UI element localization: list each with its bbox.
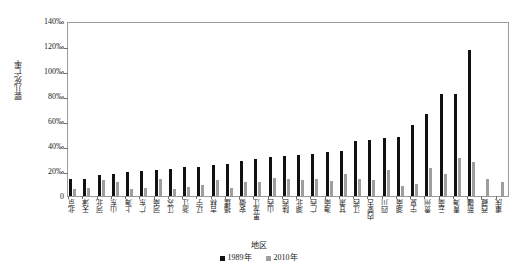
bar	[454, 94, 457, 197]
bar-group	[410, 23, 424, 196]
x-axis-tick-label: 山西	[268, 199, 279, 213]
bar-group	[382, 23, 396, 196]
bar-group	[481, 23, 495, 196]
bar	[273, 178, 276, 196]
bar	[287, 179, 290, 197]
x-axis-tick-label: 宁夏	[411, 199, 422, 213]
bar	[197, 167, 200, 196]
legend-swatch-icon	[266, 256, 271, 261]
bar	[244, 182, 247, 196]
bar	[87, 188, 90, 196]
x-axis-tick-label: 广西	[311, 199, 322, 213]
bar-group	[467, 23, 481, 196]
bar	[330, 181, 333, 196]
bar	[326, 152, 329, 196]
bar-group	[239, 23, 253, 196]
bar-group	[125, 23, 139, 196]
legend-label: 2010年	[274, 254, 298, 262]
x-axis-tick-label: 江苏	[168, 199, 179, 213]
bar	[144, 188, 147, 196]
x-axis-tick-label: 新疆	[468, 199, 479, 213]
x-axis-tick-label: 天津	[83, 199, 94, 213]
bar-group	[211, 23, 225, 196]
x-axis-tick-label: 河南	[154, 199, 165, 213]
bar	[230, 188, 233, 196]
bar-group	[339, 23, 353, 196]
bar	[301, 180, 304, 196]
bar	[444, 174, 447, 197]
bar	[415, 184, 418, 196]
bar-group	[396, 23, 410, 196]
bar	[69, 179, 72, 196]
x-axis-tick-label: 海南	[325, 199, 336, 213]
bar	[159, 179, 162, 197]
bar-group	[310, 23, 324, 196]
bar	[368, 140, 371, 196]
bar	[126, 172, 129, 196]
x-axis-tick-label: 上海	[126, 199, 137, 213]
bar	[216, 180, 219, 196]
x-axis-tick-label: 贵州	[425, 199, 436, 213]
bar	[254, 159, 257, 197]
bar	[240, 161, 243, 196]
x-axis-tick-label: 西藏	[482, 199, 493, 213]
bar	[315, 179, 318, 197]
bar-group	[282, 23, 296, 196]
bar	[102, 180, 105, 196]
bar	[387, 170, 390, 196]
legend-swatch-icon	[220, 256, 225, 261]
x-axis-tick-label: 浙江	[183, 199, 194, 213]
bar	[340, 151, 343, 196]
bar-group	[139, 23, 153, 196]
y-axis-tick-label: 120‰	[44, 43, 64, 51]
bar-group	[424, 23, 438, 196]
bar-group	[68, 23, 82, 196]
x-axis-tick-label: 陕西	[283, 199, 294, 213]
x-axis-tick-label: 江西	[354, 199, 365, 213]
x-axis-tick-label: 内蒙古	[368, 199, 379, 220]
bar-group	[225, 23, 239, 196]
legend-item[interactable]: 2010年	[266, 254, 298, 262]
x-axis-tick-label: 北京	[69, 199, 80, 213]
bar	[140, 171, 143, 196]
legend-item[interactable]: 1989年	[220, 254, 252, 262]
bar	[130, 189, 133, 196]
bar-group	[82, 23, 96, 196]
bar	[344, 174, 347, 196]
bar-group	[439, 23, 453, 196]
x-axis-tick-label: 福建	[225, 199, 236, 213]
x-axis-tick-label: 四川	[382, 199, 393, 213]
bar	[73, 189, 76, 197]
bar	[226, 164, 229, 197]
y-axis-tick-label: 100‰	[44, 68, 64, 76]
x-axis-tick-label: 湖南	[397, 199, 408, 213]
bar	[169, 169, 172, 197]
x-axis-tick-label: 黑龙江	[254, 199, 265, 220]
bar	[201, 185, 204, 196]
x-axis-tick-label: 山东	[111, 199, 122, 213]
bar	[501, 182, 504, 196]
bar-group	[97, 23, 111, 196]
bar	[258, 182, 261, 196]
y-axis-tick-labels: 140‰120‰100‰80‰60‰40‰20‰0	[26, 0, 64, 275]
bar	[112, 174, 115, 196]
bar-group	[496, 23, 510, 196]
bar-group	[367, 23, 381, 196]
bar-group	[111, 23, 125, 196]
x-axis-tick-label: 河北	[97, 199, 108, 213]
legend-label: 1989年	[228, 254, 252, 262]
bar	[383, 138, 386, 196]
bar-group	[182, 23, 196, 196]
infant-mortality-bar-chart: 婴儿死亡率 140‰120‰100‰80‰60‰40‰20‰0 北京天津河北山东…	[0, 0, 517, 275]
y-axis-tick-label: 140‰	[44, 18, 64, 26]
x-axis-tick-label: 重庆	[496, 199, 507, 213]
bar-group	[353, 23, 367, 196]
bar-group	[453, 23, 467, 196]
bar	[411, 125, 414, 196]
bar-group	[268, 23, 282, 196]
x-axis-tick-label: 吉林	[211, 199, 222, 213]
bar	[372, 180, 375, 196]
x-axis-tick-label: 辽宁	[197, 199, 208, 213]
bar-group	[325, 23, 339, 196]
y-axis-tick-label: 80‰	[48, 93, 64, 101]
